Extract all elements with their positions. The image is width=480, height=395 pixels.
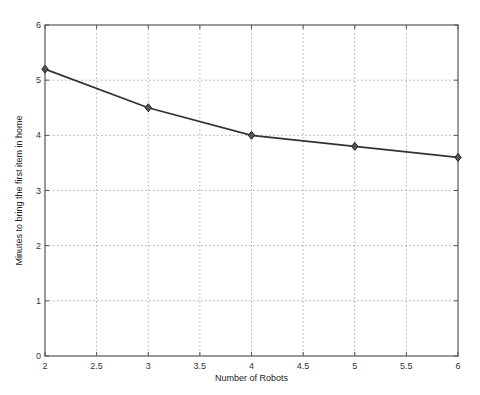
diamond-marker-icon bbox=[455, 153, 461, 161]
diamond-marker-icon bbox=[145, 104, 151, 112]
grid-lines bbox=[45, 25, 458, 356]
y-tick-label: 1 bbox=[36, 296, 41, 306]
y-tick-label: 2 bbox=[36, 241, 41, 251]
y-tick-label: 0 bbox=[36, 351, 41, 361]
y-axis-tick-labels: 0123456 bbox=[36, 20, 41, 361]
diamond-marker-icon bbox=[42, 65, 48, 73]
x-tick-label: 5.5 bbox=[400, 361, 413, 371]
line-chart: 22.533.544.555.56 0123456 Number of Robo… bbox=[0, 0, 480, 395]
y-tick-label: 6 bbox=[36, 20, 41, 30]
x-tick-label: 4 bbox=[249, 361, 254, 371]
x-tick-label: 3 bbox=[146, 361, 151, 371]
x-tick-label: 6 bbox=[455, 361, 460, 371]
x-tick-label: 5 bbox=[352, 361, 357, 371]
x-axis-label: Number of Robots bbox=[215, 373, 289, 383]
y-tick-label: 5 bbox=[36, 75, 41, 85]
diamond-marker-icon bbox=[352, 142, 358, 150]
x-tick-label: 2 bbox=[42, 361, 47, 371]
x-axis-tick-labels: 22.533.544.555.56 bbox=[42, 361, 460, 371]
y-tick-label: 3 bbox=[36, 186, 41, 196]
x-tick-label: 2.5 bbox=[90, 361, 103, 371]
x-tick-label: 3.5 bbox=[194, 361, 207, 371]
y-tick-label: 4 bbox=[36, 130, 41, 140]
y-axis-label: Minutes to bring the first item in home bbox=[14, 115, 24, 265]
x-tick-label: 4.5 bbox=[297, 361, 310, 371]
diamond-marker-icon bbox=[248, 131, 254, 139]
